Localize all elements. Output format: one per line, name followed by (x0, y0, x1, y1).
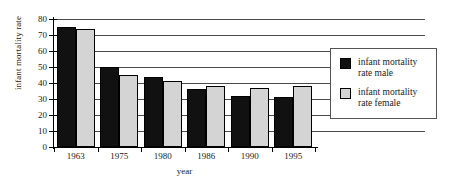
y-axis-tick-label: 60 (38, 47, 47, 56)
chart-legend: infant mortality rate male infant mortal… (330, 48, 437, 119)
chart-figure: infant mortality rate 80706050403020100 … (0, 0, 457, 187)
legend-label-female-line1: infant mortality (358, 87, 417, 97)
x-axis-labels: 196319751980198619901995 (54, 150, 315, 164)
legend-label-male: infant mortality rate male (358, 57, 417, 79)
bar-male (144, 77, 163, 147)
bar-groups (54, 19, 315, 147)
bar-male (100, 67, 119, 147)
black-square-swatch (340, 58, 351, 69)
x-axis-title: year (54, 166, 315, 176)
y-axis-tick-label: 20 (38, 111, 47, 120)
bar-group (54, 19, 98, 147)
bar-female (293, 86, 312, 147)
bar-group (98, 19, 142, 147)
y-axis-tick-label: 0 (43, 143, 48, 152)
legend-item-male: infant mortality rate male (340, 57, 436, 79)
x-axis-tick-label: 1975 (98, 150, 142, 164)
bar-male (57, 27, 76, 147)
x-axis-tick-label: 1986 (185, 150, 229, 164)
x-axis-line (53, 147, 318, 148)
y-axis-tick (49, 147, 57, 148)
bar-male (231, 96, 250, 147)
y-axis-tick-label: 80 (38, 15, 47, 24)
legend-label-female-line2: rate female (358, 98, 400, 108)
gray-square-swatch (340, 88, 351, 99)
x-axis-tick (315, 147, 316, 152)
legend-item-female: infant mortality rate female (340, 87, 436, 109)
bar-female (76, 29, 95, 147)
y-axis-tick-label: 30 (38, 95, 47, 104)
bar-group (272, 19, 316, 147)
x-axis-tick-label: 1990 (228, 150, 272, 164)
x-axis-tick-label: 1963 (54, 150, 98, 164)
bar-female (206, 86, 225, 147)
bar-female (250, 88, 269, 147)
y-axis-title: infant mortality rate (13, 0, 23, 113)
bar-group (141, 19, 185, 147)
bar-male (187, 89, 206, 147)
x-axis-tick-label: 1995 (272, 150, 316, 164)
bar-group (185, 19, 229, 147)
bar-male (274, 97, 293, 147)
bar-female (119, 75, 138, 147)
bar-group (228, 19, 272, 147)
legend-label-female: infant mortality rate female (358, 87, 417, 109)
y-axis-tick-label: 40 (38, 79, 47, 88)
bar-female (163, 81, 182, 147)
y-axis-tick-label: 70 (38, 31, 47, 40)
x-axis-tick-label: 1980 (141, 150, 185, 164)
legend-label-male-line1: infant mortality (358, 57, 417, 67)
y-axis-tick-label: 10 (38, 127, 47, 136)
legend-label-male-line2: rate male (358, 68, 393, 78)
y-axis-tick-label: 50 (38, 63, 47, 72)
